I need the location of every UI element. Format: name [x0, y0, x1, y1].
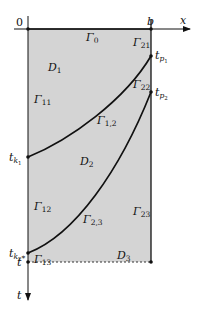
- point-b-tstar: [149, 260, 153, 264]
- point-tp1: [149, 54, 153, 58]
- point-origin: [26, 27, 30, 31]
- t-label: t: [17, 289, 22, 302]
- point-tstar: [26, 260, 30, 264]
- x-label: x: [180, 14, 187, 27]
- tp2-label: tp2: [155, 86, 168, 101]
- b-label: b: [147, 15, 154, 28]
- tp1-label: tp1: [155, 49, 168, 64]
- tk2-label: tk2: [9, 247, 21, 262]
- domain-diagram: 0 b x t t* D1 D2 D3 Γ0 Γ11 Γ12 Γ13 Γ21 Γ…: [0, 0, 199, 311]
- tk1-label: tk1: [9, 151, 21, 166]
- domain-fill: [28, 29, 151, 262]
- point-tk1: [26, 155, 30, 159]
- origin-label: 0: [16, 16, 23, 29]
- point-tk2: [26, 251, 30, 255]
